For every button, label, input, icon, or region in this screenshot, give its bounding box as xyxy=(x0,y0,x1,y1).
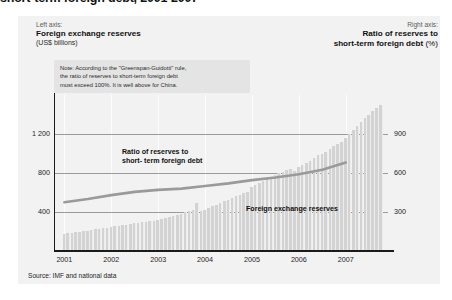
ratio-line-path xyxy=(64,163,345,203)
series-label-ratio: Ratio of reserves to short- term foreign… xyxy=(122,148,202,166)
plot-area xyxy=(55,95,388,251)
y-axis-tick-label: 1 200 xyxy=(22,129,50,138)
right-axis-caption: Right axis: Ratio of reserves to short-t… xyxy=(334,21,438,49)
series-label-ratio-line1: Ratio of reserves to xyxy=(122,148,202,157)
note-line-3: must exceed 100%. It is well above for C… xyxy=(60,81,245,89)
y2-axis-tick-label: 900 xyxy=(394,129,428,138)
series-label-ratio-line2: short- term foreign debt xyxy=(122,157,202,166)
line-series-ratio-of-reserves xyxy=(55,95,388,251)
y-axis-tick-label: 800 xyxy=(22,168,50,177)
x-axis-tick-label: 2007 xyxy=(338,255,354,264)
right-axis-unit: (%) xyxy=(425,39,438,48)
right-axis-tick-labels: 300600900 xyxy=(394,95,428,251)
right-axis-title-line2: short-term foreign debt (%) xyxy=(334,39,438,49)
left-axis-tick-labels: 4008001 200 xyxy=(22,95,50,251)
left-axis-caption: Left axis: Foreign exchange reserves (US… xyxy=(36,21,141,47)
right-axis-title-line1: Ratio of reserves to xyxy=(334,29,438,39)
right-axis-title-line2-text: short-term foreign debt xyxy=(334,39,423,48)
source-note: Source: IMF and national data xyxy=(28,272,116,279)
note-line-2: the ratio of reserves to short-term fore… xyxy=(60,72,245,80)
ratio-line-svg xyxy=(55,95,388,251)
note-box: Note: According to the "Greenspan-Guidot… xyxy=(54,60,250,93)
figure-title-strip: short-term foreign debt, 2001-2007 xyxy=(0,0,452,13)
y-axis-tick-label: 400 xyxy=(22,207,50,216)
x-axis-line xyxy=(55,250,394,252)
x-axis-tick-label: 2001 xyxy=(56,255,72,264)
y-axis-line xyxy=(54,93,55,252)
note-line-1: Note: According to the "Greenspan-Guidot… xyxy=(60,64,245,72)
x-axis-tick-label: 2004 xyxy=(197,255,213,264)
left-axis-unit: (US$ billions) xyxy=(36,39,141,48)
left-axis-title: Foreign exchange reserves xyxy=(36,29,141,39)
right-axis-kicker: Right axis: xyxy=(334,21,438,29)
series-label-reserves: Foreign exchange reserves xyxy=(246,205,338,214)
y2-axis-tick-label: 600 xyxy=(394,168,428,177)
x-axis-tick-label: 2006 xyxy=(291,255,307,264)
x-axis-tick-label: 2005 xyxy=(244,255,260,264)
page-title: short-term foreign debt, 2001-2007 xyxy=(0,0,198,5)
x-axis-tick-label: 2003 xyxy=(150,255,166,264)
left-axis-kicker: Left axis: xyxy=(36,21,141,29)
x-axis-tick-label: 2002 xyxy=(103,255,119,264)
x-axis-tick-labels: 2001200220032004200520062007 xyxy=(55,255,388,269)
y2-axis-tick-label: 300 xyxy=(394,207,428,216)
